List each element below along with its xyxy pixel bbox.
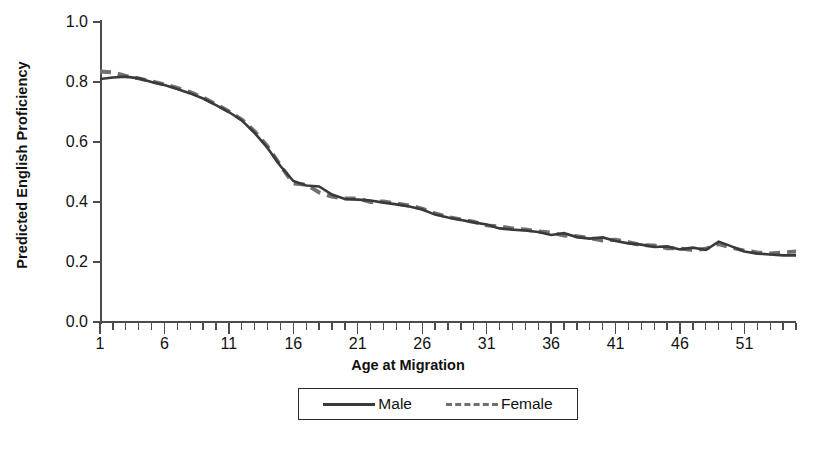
x-tick-label: 41 (607, 335, 625, 353)
x-tick-label: 26 (413, 335, 431, 353)
x-tick-mark-minor (254, 323, 255, 330)
x-tick-label: 51 (736, 335, 754, 353)
x-tick-mark-major (357, 323, 358, 334)
x-tick-mark-major (679, 323, 680, 334)
x-tick-mark-major (99, 323, 100, 334)
x-tick-mark-minor (499, 323, 500, 330)
x-tick-mark-minor (177, 323, 178, 330)
y-tick-label: 0.6 (44, 133, 88, 151)
x-axis-title: Age at Migration (0, 357, 816, 373)
y-tick-mark (93, 201, 100, 203)
legend-label-male: Male (378, 395, 412, 413)
x-tick-mark-minor (718, 323, 719, 330)
legend-item-male: Male (323, 395, 412, 413)
x-tick-mark-major (550, 323, 551, 334)
x-tick-label: 16 (284, 335, 302, 353)
x-tick-mark-minor (473, 323, 474, 330)
x-tick-mark-major (486, 323, 487, 334)
x-tick-mark-major (615, 323, 616, 334)
x-tick-mark-minor (280, 323, 281, 330)
x-tick-mark-minor (447, 323, 448, 330)
x-tick-label: 21 (349, 335, 367, 353)
x-tick-mark-minor (770, 323, 771, 330)
x-tick-label: 11 (221, 335, 238, 353)
y-axis-title: Predicted English Proficiency (0, 0, 44, 330)
x-tick-mark-minor (202, 323, 203, 330)
x-tick-mark-minor (383, 323, 384, 330)
x-tick-mark-minor (125, 323, 126, 330)
y-tick-label: 0.2 (44, 253, 88, 271)
x-tick-label: 31 (478, 335, 496, 353)
x-tick-mark-major (164, 323, 165, 334)
x-tick-mark-minor (602, 323, 603, 330)
x-tick-label: 1 (96, 335, 105, 353)
x-tick-mark-major (293, 323, 294, 334)
x-tick-mark-minor (241, 323, 242, 330)
legend-swatch-dashed-icon (446, 403, 498, 406)
x-tick-mark-minor (344, 323, 345, 330)
x-tick-mark-minor (563, 323, 564, 330)
data-lines (100, 22, 796, 322)
x-tick-mark-minor (795, 323, 796, 330)
x-tick-label: 6 (160, 335, 169, 353)
y-tick-label: 0.4 (44, 193, 88, 211)
x-tick-mark-major (744, 323, 745, 334)
y-tick-label: 1.0 (44, 13, 88, 31)
y-tick-mark (93, 21, 100, 23)
y-tick-label: 0.8 (44, 73, 88, 91)
x-tick-label: 36 (542, 335, 560, 353)
plot-area (100, 22, 796, 322)
x-tick-mark-minor (705, 323, 706, 330)
x-tick-mark-minor (138, 323, 139, 330)
y-axis-title-text: Predicted English Proficiency (14, 61, 30, 269)
x-tick-mark-minor (434, 323, 435, 330)
x-tick-mark-minor (409, 323, 410, 330)
x-tick-mark-minor (641, 323, 642, 330)
x-tick-mark-minor (151, 323, 152, 330)
x-tick-mark-minor (654, 323, 655, 330)
chart-figure: Predicted English Proficiency 0.00.20.40… (0, 0, 816, 449)
x-tick-mark-minor (782, 323, 783, 330)
chart-legend: Male Female (298, 388, 578, 420)
x-tick-mark-minor (512, 323, 513, 330)
x-tick-mark-minor (215, 323, 216, 330)
x-tick-mark-minor (370, 323, 371, 330)
x-tick-mark-minor (112, 323, 113, 330)
x-tick-mark-major (228, 323, 229, 334)
x-tick-mark-minor (460, 323, 461, 330)
y-tick-mark (93, 261, 100, 263)
legend-swatch-solid-icon (323, 403, 375, 406)
legend-item-female: Female (446, 395, 553, 413)
x-tick-mark-minor (666, 323, 667, 330)
x-tick-mark-minor (576, 323, 577, 330)
series-line-male (100, 77, 796, 256)
x-tick-mark-minor (628, 323, 629, 330)
x-tick-mark-minor (190, 323, 191, 330)
x-tick-mark-minor (318, 323, 319, 330)
x-tick-mark-minor (538, 323, 539, 330)
x-tick-mark-minor (331, 323, 332, 330)
x-tick-mark-minor (692, 323, 693, 330)
y-tick-mark (93, 141, 100, 143)
x-tick-mark-minor (306, 323, 307, 330)
x-tick-mark-minor (267, 323, 268, 330)
y-tick-label: 0.0 (44, 313, 88, 331)
legend-label-female: Female (501, 395, 553, 413)
x-tick-mark-minor (731, 323, 732, 330)
y-tick-mark (93, 81, 100, 83)
x-tick-mark-minor (525, 323, 526, 330)
x-tick-mark-major (422, 323, 423, 334)
x-tick-mark-minor (396, 323, 397, 330)
x-tick-mark-minor (589, 323, 590, 330)
x-tick-label: 46 (671, 335, 689, 353)
x-tick-mark-minor (757, 323, 758, 330)
